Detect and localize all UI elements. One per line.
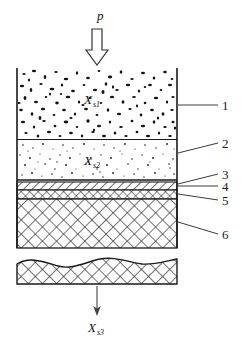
zone-2-suspension bbox=[18, 140, 176, 180]
outflow-label-sub: s3 bbox=[97, 328, 104, 337]
leader-5 bbox=[178, 194, 218, 200]
zone-2-label-sub: s2 bbox=[93, 161, 100, 170]
filtration-diagram: p bbox=[0, 0, 243, 344]
zone-1-label-base: X bbox=[83, 92, 93, 107]
pressure-arrow-icon bbox=[86, 29, 108, 65]
layer-5-band bbox=[17, 190, 177, 199]
pressure-indicator: p bbox=[86, 8, 108, 65]
outflow-indicator bbox=[93, 286, 101, 316]
pressure-label: p bbox=[96, 8, 104, 23]
outflow-label-base: X bbox=[87, 320, 97, 335]
zone-2-label-base: X bbox=[83, 153, 93, 168]
callout-label-4: 4 bbox=[222, 179, 229, 194]
zone-1-label-sub: s1 bbox=[93, 100, 100, 109]
leader-6 bbox=[178, 222, 218, 234]
callout-label-5: 5 bbox=[222, 193, 229, 208]
leader-3 bbox=[178, 174, 218, 184]
detached-cake-block bbox=[17, 256, 177, 284]
callout-numbers: 1 2 3 4 5 6 bbox=[222, 98, 229, 242]
figure-canvas: p bbox=[0, 0, 243, 344]
callout-leaders bbox=[178, 105, 218, 234]
callout-label-1: 1 bbox=[222, 98, 229, 113]
layer-6-cake bbox=[17, 199, 177, 248]
outflow-label: X s3 bbox=[87, 320, 104, 337]
leader-2 bbox=[178, 143, 218, 153]
callout-label-2: 2 bbox=[222, 136, 229, 151]
layer-4-band bbox=[17, 182, 177, 190]
callout-label-6: 6 bbox=[222, 227, 229, 242]
